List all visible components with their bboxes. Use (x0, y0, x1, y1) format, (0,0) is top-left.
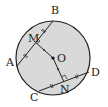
label-m: M (28, 32, 39, 45)
dot-on (57, 68, 59, 70)
label-c: C (30, 91, 38, 104)
dot-om (43, 49, 45, 51)
circle-diagram: B A M O D N C (0, 0, 108, 107)
label-n: N (60, 83, 70, 96)
label-b: B (51, 4, 59, 17)
label-o: O (57, 52, 66, 65)
label-a: A (5, 56, 15, 69)
label-d: D (91, 66, 100, 79)
center-point-o (51, 56, 54, 59)
